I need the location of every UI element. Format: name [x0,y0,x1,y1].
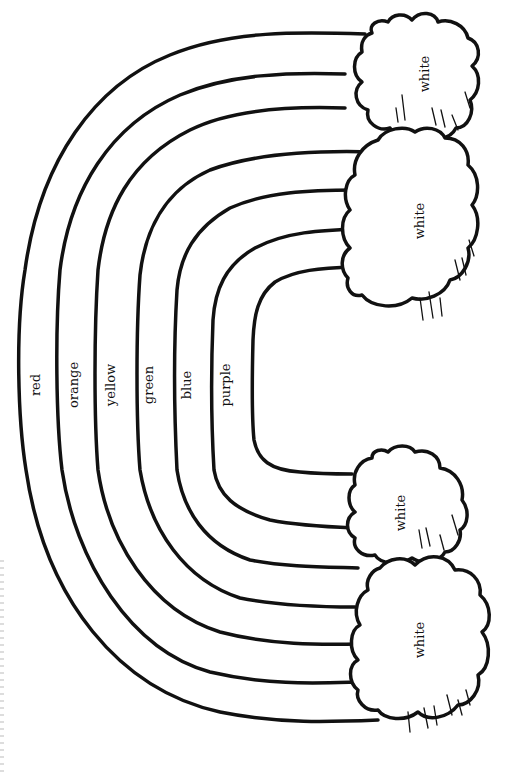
band-label-blue: blue [179,370,194,399]
cloud-label-bottom-inner: white [393,494,408,531]
band-label-purple: purple [218,363,233,406]
cloud-label-top-outer: white [417,55,432,92]
arc-6 [212,229,362,528]
cloud-label-top-inner: white [412,202,427,239]
rainbow-drawing: red orange yellow green blue purple whit… [0,0,505,772]
band-label-red: red [28,374,43,396]
band-label-green: green [141,365,156,404]
band-label-yellow: yellow [103,364,118,407]
band-label-orange: orange [66,362,81,408]
arc-4 [137,152,375,607]
arc-5 [175,190,358,568]
cloud-label-bottom-outer: white [412,621,427,658]
arc-7 [252,267,355,474]
cloud-top-inner [342,128,478,306]
